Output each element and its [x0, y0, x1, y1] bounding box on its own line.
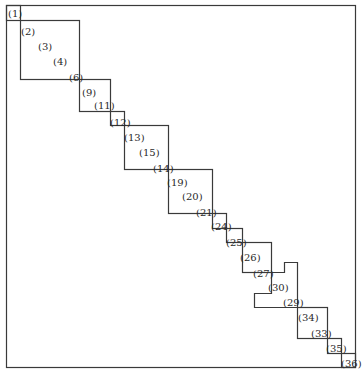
- label-34: (34): [298, 313, 319, 323]
- label-36: (36): [341, 359, 362, 369]
- label-25: (25): [226, 238, 247, 248]
- label-13: (13): [124, 133, 145, 143]
- label-11: (11): [94, 101, 115, 111]
- label-12: (12): [110, 118, 131, 128]
- label-3: (3): [38, 42, 52, 52]
- label-26: (26): [240, 253, 261, 263]
- label-15: (15): [139, 148, 160, 158]
- label-30: (30): [268, 283, 289, 293]
- label-6: (6): [69, 73, 83, 83]
- label-35: (35): [326, 344, 347, 354]
- label-19: (19): [167, 178, 188, 188]
- label-4: (4): [53, 57, 67, 67]
- label-29: (29): [283, 298, 304, 308]
- label-20: (20): [182, 192, 203, 202]
- label-2: (2): [21, 27, 35, 37]
- label-9: (9): [82, 88, 96, 98]
- label-21: (21): [196, 208, 217, 218]
- label-33: (33): [311, 329, 332, 339]
- label-1: (1): [8, 9, 22, 19]
- label-14: (14): [153, 164, 174, 174]
- label-27: (27): [253, 269, 274, 279]
- label-24: (24): [211, 222, 232, 232]
